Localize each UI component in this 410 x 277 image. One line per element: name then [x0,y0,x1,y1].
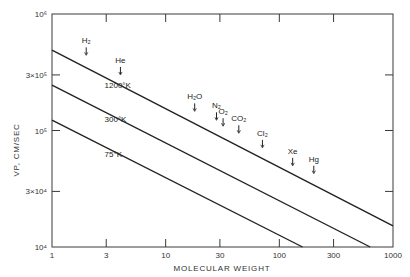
molecule-marker: H₂O [187,92,202,111]
temperature-line-label: 75°K [105,150,123,159]
plot-frame [52,14,393,247]
molecule-label: Cl₂ [257,129,268,138]
x-tick-label: 1 [50,251,55,260]
molecule-label: H₂ [82,36,91,45]
temperature-line [52,120,303,247]
y-tick-label: 3×10⁴ [26,187,48,196]
molecule-marker: He [115,56,126,75]
molecule-label: Xe [288,147,298,156]
temperature-line-label: 300°K [105,115,128,124]
molecule-label: O₂ [218,107,227,116]
x-axis-ticks: 1310301003001000 [50,14,403,260]
molecule-marker: Xe [288,147,298,166]
x-tick-label: 100 [273,251,287,260]
molecule-label: Hg [309,155,319,164]
y-tick-label: 10⁶ [35,10,47,19]
molecule-label: He [115,56,126,65]
molecule-label: H₂O [187,92,202,101]
molecule-marker: Hg [309,155,319,174]
x-tick-label: 1000 [384,251,402,260]
most-probable-velocity-chart: 1310301003001000 10⁴3×10⁴10⁵3×10⁵10⁶ 120… [0,0,410,277]
y-tick-label: 10⁴ [35,243,48,252]
x-tick-label: 30 [215,251,224,260]
y-tick-label: 3×10⁵ [26,71,47,80]
y-tick-label: 10⁵ [35,127,47,136]
temperature-lines: 1200°K300°K75°K [52,50,393,247]
molecule-marker: H₂ [82,36,91,55]
molecule-marker: O₂ [218,107,227,126]
molecule-marker: Cl₂ [257,129,268,148]
x-axis-title: MOLECULAR WEIGHT [174,264,271,273]
molecule-label: CO₂ [231,114,246,123]
x-tick-label: 10 [161,251,170,260]
molecule-marker: CO₂ [231,114,246,133]
y-axis-title: VP, CM/SEC [12,123,21,176]
x-tick-label: 300 [327,251,341,260]
plot-border [52,14,393,247]
x-tick-label: 3 [104,251,109,260]
temperature-line [52,50,393,226]
temperature-line-label: 1200°K [105,81,132,90]
